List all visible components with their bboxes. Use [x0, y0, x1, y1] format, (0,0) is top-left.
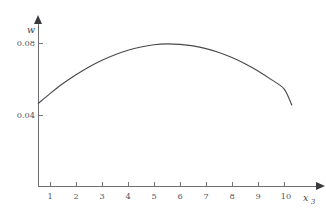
x-tick-label: 4: [125, 191, 130, 201]
x-tick-label: 7: [203, 191, 208, 201]
data-curve: [38, 44, 291, 105]
y-tick-label: 0.08: [17, 38, 35, 48]
x-tick-label: 1: [47, 191, 52, 201]
x-tick-label: 3: [99, 191, 104, 201]
plot-area: 1 2 3 4 5 6 7 8 9 10 0.08 0.04 w x 3: [0, 0, 326, 208]
x-tick-label: 8: [229, 191, 234, 201]
y-tick-marks: [38, 43, 43, 115]
x-tick-label: 2: [73, 191, 78, 201]
chart-figure: 1 2 3 4 5 6 7 8 9 10 0.08 0.04 w x 3: [0, 0, 326, 208]
x-axis-title-subscript: 3: [311, 198, 315, 206]
x-tick-marks: [50, 182, 284, 186]
x-tick-label: 5: [151, 191, 156, 201]
x-tick-label: 10: [281, 191, 291, 201]
x-tick-label: 6: [177, 191, 182, 201]
y-axis-arrow-icon: [34, 15, 42, 24]
y-tick-label: 0.04: [17, 110, 35, 120]
x-axis-arrow-icon: [316, 182, 325, 190]
x-tick-label: 9: [255, 191, 260, 201]
x-axis-title: x: [303, 192, 309, 203]
y-axis-title: w: [27, 24, 35, 35]
